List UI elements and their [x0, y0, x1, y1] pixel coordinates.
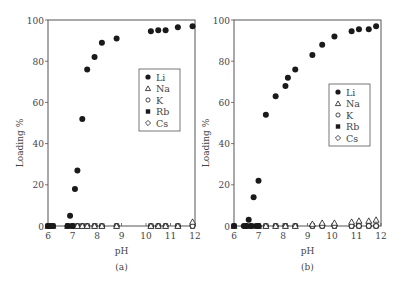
y-tick-label: 100 [213, 16, 230, 26]
legend-label-na: Na [346, 98, 360, 109]
legend-label-rb: Rb [156, 106, 169, 117]
data-point-li [114, 36, 120, 42]
data-point-li [70, 223, 76, 229]
data-point-li [148, 28, 154, 34]
data-point-li [99, 40, 105, 46]
x-tick-label: 6 [45, 231, 51, 241]
data-point-li [67, 213, 73, 219]
y-tick-label: 60 [33, 98, 45, 108]
data-point-li [263, 112, 269, 118]
legend-marker-rb [146, 109, 150, 113]
data-point-li [256, 223, 262, 229]
y-tick-label: 100 [27, 16, 44, 26]
data-point-k [374, 224, 379, 229]
legend: LiNaKRbCs [139, 69, 180, 131]
legend-label-cs: Cs [346, 133, 358, 144]
x-tick-label: 12 [375, 231, 386, 241]
data-point-li [282, 83, 288, 89]
data-point-na [319, 220, 325, 225]
y-axis-label: Loading % [15, 118, 25, 167]
data-point-na [356, 218, 362, 223]
x-tick-label: 8 [280, 231, 286, 241]
legend-label-cs: Cs [156, 118, 168, 129]
data-point-li [319, 42, 325, 48]
data-point-li [309, 52, 315, 58]
figure: 0204060801006789101112pHLoading %(a)LiNa… [0, 0, 403, 286]
data-point-li [79, 116, 85, 122]
y-tick-label: 0 [38, 222, 44, 232]
legend-label-li: Li [156, 72, 165, 83]
x-tick-label: 7 [70, 231, 76, 241]
y-tick-label: 40 [219, 139, 231, 149]
y-tick-label: 80 [219, 57, 231, 67]
data-point-li [231, 223, 237, 229]
data-point-li [175, 24, 181, 30]
data-point-li [273, 93, 279, 99]
data-point-li [256, 178, 262, 184]
data-point-li [92, 54, 98, 60]
x-tick-label: 10 [140, 231, 152, 241]
legend-label-na: Na [156, 83, 170, 94]
legend-marker-k [336, 113, 340, 117]
legend-label-rb: Rb [346, 121, 359, 132]
y-tick-label: 0 [224, 222, 230, 232]
y-axis-label: Loading % [201, 118, 211, 167]
y-tick-label: 20 [33, 180, 45, 190]
data-point-li [366, 26, 372, 32]
data-point-li [84, 66, 90, 72]
data-point-k [357, 224, 362, 229]
x-tick-label: 9 [119, 231, 125, 241]
x-tick-label: 12 [189, 231, 200, 241]
data-point-li [74, 167, 80, 173]
data-point-li [373, 23, 379, 29]
x-tick-label: 10 [326, 231, 338, 241]
x-tick-label: 11 [351, 231, 362, 241]
x-tick-label: 11 [165, 231, 176, 241]
data-point-li [292, 66, 298, 72]
panel-label: (a) [115, 262, 127, 272]
x-tick-label: 9 [305, 231, 311, 241]
legend-marker-li [335, 89, 340, 94]
data-point-na [366, 218, 372, 223]
legend: LiNaKRbCs [329, 84, 370, 146]
data-point-li [356, 26, 362, 32]
data-point-na [373, 217, 379, 222]
y-tick-label: 20 [219, 180, 231, 190]
data-point-k [366, 224, 371, 229]
legend-marker-k [146, 98, 150, 102]
x-axis-label: pH [115, 246, 129, 256]
legend-label-k: K [346, 110, 354, 121]
x-tick-label: 8 [94, 231, 100, 241]
y-tick-label: 40 [33, 139, 45, 149]
legend-label-li: Li [346, 87, 355, 98]
data-point-li [50, 223, 56, 229]
data-point-li [285, 75, 291, 81]
data-point-li [163, 27, 169, 33]
legend-label-k: K [156, 95, 164, 106]
data-point-na [349, 219, 355, 224]
data-point-li [190, 23, 196, 29]
legend-marker-li [145, 74, 150, 79]
panel-label: (b) [301, 262, 314, 272]
x-tick-label: 6 [231, 231, 237, 241]
legend-marker-rb [336, 124, 340, 128]
chart-panel-a: 0204060801006789101112pHLoading %(a)LiNa… [15, 16, 201, 273]
data-point-li [72, 186, 78, 192]
x-tick-label: 7 [256, 231, 262, 241]
data-point-li [246, 217, 252, 223]
chart-panel-b: 0204060801006789101112pHLoading %(b)LiNa… [201, 16, 387, 273]
data-point-li [349, 28, 355, 34]
data-point-li [155, 27, 161, 33]
y-tick-label: 80 [33, 57, 45, 67]
data-point-li [331, 33, 337, 39]
y-tick-label: 60 [219, 98, 231, 108]
data-point-li [251, 194, 257, 200]
x-axis-label: pH [301, 246, 315, 256]
data-point-na [331, 220, 337, 225]
